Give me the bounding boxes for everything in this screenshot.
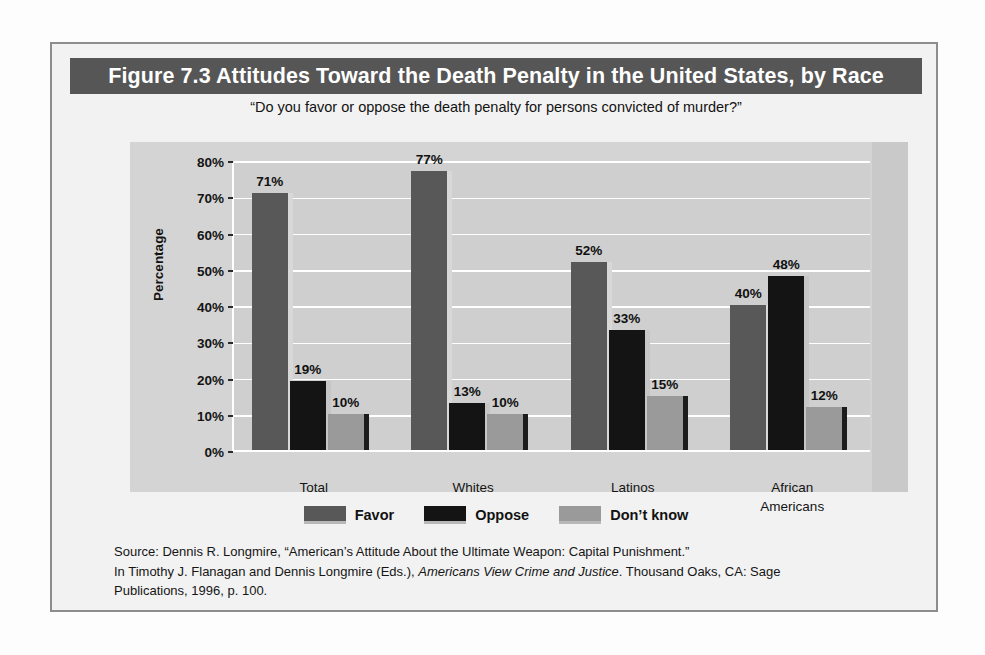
source-line-3: Publications, 1996, p. 100.: [114, 581, 904, 601]
bar-body: [449, 403, 485, 450]
x-axis-category-label: Whites: [393, 478, 553, 497]
bar: 10%: [328, 414, 364, 450]
figure-title: Figure 7.3 Attitudes Toward the Death Pe…: [108, 64, 884, 89]
y-axis-tick-mark: [228, 306, 233, 308]
figure-subtitle: “Do you favor or oppose the death penalt…: [52, 99, 940, 115]
bar-side-shading: [523, 414, 528, 450]
bar-body: [806, 407, 842, 451]
y-axis-tick-mark: [228, 270, 233, 272]
bar: 19%: [290, 381, 326, 450]
bar: 71%: [252, 193, 288, 450]
bar-value-label: 48%: [773, 257, 800, 272]
bar-value-label: 10%: [492, 395, 519, 410]
legend-item: Oppose: [424, 506, 529, 524]
bar-side-shading: [364, 414, 369, 450]
bar: 77%: [411, 171, 447, 450]
legend-item: Don’t know: [559, 506, 688, 524]
bar-value-label: 19%: [294, 362, 321, 377]
bar-value-label: 33%: [613, 311, 640, 326]
bar-body: [328, 414, 364, 450]
y-axis-tick-label: 50%: [162, 263, 224, 278]
legend-swatch: [559, 506, 601, 524]
y-axis-tick-mark: [228, 415, 233, 417]
bar: 52%: [571, 262, 607, 451]
bar: 33%: [609, 330, 645, 450]
legend-label: Favor: [355, 507, 395, 523]
y-axis-tick-label: 20%: [162, 372, 224, 387]
bar-body: [768, 276, 804, 450]
bar-value-label: 40%: [735, 286, 762, 301]
source-note: Source: Dennis R. Longmire, “American’s …: [114, 542, 904, 601]
x-axis-category-label: Latinos: [553, 478, 713, 497]
bar-body: [252, 193, 288, 450]
y-axis-tick-mark: [228, 451, 233, 453]
bar-side-shading: [842, 407, 847, 451]
bar-group: 77%13%10%: [411, 160, 523, 450]
bar-body: [290, 381, 326, 450]
legend-item: Favor: [304, 506, 395, 524]
panel-right-shading: [872, 142, 908, 492]
bar-value-label: 77%: [416, 152, 443, 167]
plot-area: 0%10%20%30%40%50%60%70%80%71%19%10%Total…: [232, 162, 870, 452]
source-line-1: Source: Dennis R. Longmire, “American’s …: [114, 542, 904, 562]
y-axis-tick-label: 80%: [162, 155, 224, 170]
x-axis-category-label-line: Whites: [393, 478, 553, 497]
y-axis-tick-label: 40%: [162, 300, 224, 315]
y-axis-tick-label: 70%: [162, 191, 224, 206]
y-axis-tick-label: 0%: [162, 445, 224, 460]
bar: 13%: [449, 403, 485, 450]
legend-swatch: [304, 506, 346, 524]
x-axis-category-label: Total: [234, 478, 394, 497]
y-axis-tick-mark: [228, 234, 233, 236]
bar-body: [571, 262, 607, 451]
y-axis-tick-mark: [228, 342, 233, 344]
figure-screenshot: Figure 7.3 Attitudes Toward the Death Pe…: [0, 0, 985, 655]
bar-group: 71%19%10%: [252, 160, 364, 450]
bar-body: [647, 396, 683, 450]
y-axis-tick-label: 60%: [162, 227, 224, 242]
x-axis-category-label-line: Latinos: [553, 478, 713, 497]
figure-title-bar: Figure 7.3 Attitudes Toward the Death Pe…: [70, 58, 922, 94]
chart-panel: Percentage 0%10%20%30%40%50%60%70%80%71%…: [130, 142, 908, 492]
bar-body: [609, 330, 645, 450]
bar-value-label: 13%: [454, 384, 481, 399]
bar-side-shading: [683, 396, 688, 450]
y-axis-tick-mark: [228, 161, 233, 163]
bar-group: 52%33%15%: [571, 160, 683, 450]
bar-group: 40%48%12%: [730, 160, 842, 450]
y-axis-tick-label: 10%: [162, 408, 224, 423]
bar: 12%: [806, 407, 842, 451]
bar: 48%: [768, 276, 804, 450]
bar-value-label: 10%: [332, 395, 359, 410]
bar-value-label: 12%: [811, 388, 838, 403]
bar: 40%: [730, 305, 766, 450]
source-line-2-b: . Thousand Oaks, CA: Sage: [619, 564, 781, 579]
bar-value-label: 71%: [256, 174, 283, 189]
legend-label: Oppose: [475, 507, 529, 523]
source-line-2: In Timothy J. Flanagan and Dennis Longmi…: [114, 562, 904, 582]
bar: 15%: [647, 396, 683, 450]
bar-body: [730, 305, 766, 450]
figure-box: Figure 7.3 Attitudes Toward the Death Pe…: [50, 42, 938, 612]
legend-swatch: [424, 506, 466, 524]
source-book-title: Americans View Crime and Justice: [418, 564, 619, 579]
y-axis-tick-mark: [228, 197, 233, 199]
bar-value-label: 15%: [651, 377, 678, 392]
legend-label: Don’t know: [610, 507, 688, 523]
chart-legend: FavorOpposeDon’t know: [52, 506, 940, 524]
x-axis-category-label-line: African: [712, 478, 872, 497]
y-axis-tick-mark: [228, 379, 233, 381]
x-axis-category-label-line: Total: [234, 478, 394, 497]
bar-body: [411, 171, 447, 450]
bar-value-label: 52%: [575, 243, 602, 258]
source-line-2-a: In Timothy J. Flanagan and Dennis Longmi…: [114, 564, 418, 579]
bar-body: [487, 414, 523, 450]
bar: 10%: [487, 414, 523, 450]
y-axis-tick-label: 30%: [162, 336, 224, 351]
